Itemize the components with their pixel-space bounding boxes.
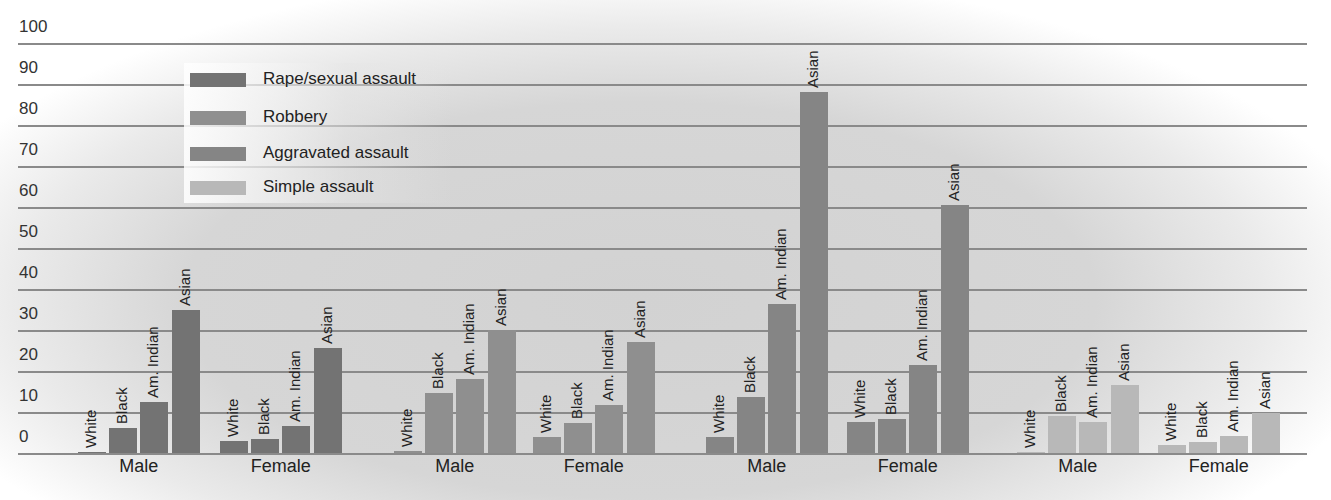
bar-category-label: Am. Indian	[773, 228, 789, 300]
bar-category-label: Am. Indian	[1084, 347, 1100, 419]
bar-category-label: Black	[1194, 402, 1210, 439]
group-label-female: Female	[533, 456, 655, 477]
gridline	[18, 207, 1307, 209]
bar-asian-male	[1111, 385, 1139, 453]
bar-category-label: Black	[1053, 375, 1069, 412]
bar-black-female	[1189, 442, 1217, 453]
legend-item: Aggravated assault	[190, 145, 490, 163]
group-label-female: Female	[220, 456, 342, 477]
y-axis-tick-label: 20	[19, 346, 38, 364]
gridline	[18, 453, 1307, 455]
group-label-male: Male	[78, 456, 200, 477]
legend-label: Rape/sexual assault	[263, 69, 416, 89]
gridline	[18, 330, 1307, 332]
bar-black-female	[878, 419, 906, 453]
bar-category-label: Black	[742, 357, 758, 394]
bar-category-label: White	[852, 379, 868, 417]
gridline	[18, 43, 1307, 45]
y-axis-tick-label: 50	[19, 223, 38, 241]
bar-asian-female	[941, 205, 969, 453]
group-label-male: Male	[706, 456, 828, 477]
y-axis-tick-label: 40	[19, 264, 38, 282]
bar-category-label: Am. Indian	[461, 303, 477, 375]
gridline	[18, 248, 1307, 250]
bar-category-label: Asian	[177, 268, 193, 306]
bar-category-label: White	[399, 409, 415, 447]
bar-asian-male	[800, 92, 828, 453]
bar-category-label: Am. Indian	[1225, 360, 1241, 432]
bar-chart: 0102030405060708090100WhiteBlackAm. Indi…	[0, 0, 1331, 500]
bar-am-indian-female	[1220, 436, 1248, 453]
y-axis-tick-label: 0	[19, 428, 28, 446]
legend-swatch	[190, 147, 246, 161]
bar-category-label: White	[538, 394, 554, 432]
bar-category-label: Black	[114, 388, 130, 425]
legend-item: Rape/sexual assault	[190, 71, 490, 89]
bar-white-female	[1158, 445, 1186, 453]
legend-swatch	[190, 181, 246, 195]
bar-category-label: White	[711, 394, 727, 432]
bar-category-label: Asian	[805, 51, 821, 89]
bar-category-label: Asian	[632, 301, 648, 339]
y-axis-tick-label: 60	[19, 182, 38, 200]
y-axis-tick-label: 70	[19, 141, 38, 159]
bar-am-indian-male	[456, 379, 484, 453]
legend-label: Simple assault	[263, 177, 374, 197]
bar-category-label: White	[1022, 409, 1038, 447]
legend-swatch	[190, 73, 246, 87]
bar-category-label: Asian	[319, 307, 335, 345]
bar-asian-male	[172, 310, 200, 454]
bar-white-male	[78, 452, 106, 454]
bar-black-male	[109, 428, 137, 453]
group-label-female: Female	[847, 456, 969, 477]
legend-label: Aggravated assault	[263, 143, 409, 163]
y-axis-tick-label: 30	[19, 305, 38, 323]
legend-item: Robbery	[190, 109, 490, 127]
bar-black-female	[251, 439, 279, 453]
bar-white-male	[706, 437, 734, 453]
bar-category-label: Asian	[493, 288, 509, 326]
bar-category-label: Asian	[1257, 372, 1273, 410]
bar-category-label: Black	[883, 378, 899, 415]
bar-category-label: Black	[569, 382, 585, 419]
bar-category-label: White	[1163, 402, 1179, 440]
bar-category-label: Am. Indian	[287, 350, 303, 422]
bar-am-indian-female	[595, 405, 623, 453]
bar-white-male	[394, 451, 422, 453]
bar-am-indian-male	[140, 402, 168, 453]
y-axis-tick-label: 80	[19, 100, 38, 118]
bar-am-indian-female	[909, 365, 937, 453]
bar-am-indian-male	[1079, 422, 1107, 453]
bar-black-male	[425, 393, 453, 453]
bar-black-female	[564, 423, 592, 453]
bar-white-female	[533, 437, 561, 453]
bar-category-label: White	[83, 409, 99, 447]
bar-asian-male	[488, 330, 516, 453]
bar-asian-female	[314, 348, 342, 453]
bar-category-label: Am. Indian	[145, 326, 161, 398]
gridline	[18, 289, 1307, 291]
bar-category-label: Asian	[1116, 343, 1132, 381]
bar-am-indian-female	[282, 426, 310, 453]
legend-item: Simple assault	[190, 179, 490, 197]
bar-white-male	[1017, 452, 1045, 454]
bar-category-label: White	[225, 398, 241, 436]
bar-white-female	[847, 422, 875, 453]
legend-swatch	[190, 111, 246, 125]
bar-asian-female	[1252, 413, 1280, 453]
y-axis-tick-label: 100	[19, 18, 47, 36]
bar-black-male	[737, 397, 765, 453]
bar-category-label: Am. Indian	[914, 290, 930, 362]
group-label-female: Female	[1158, 456, 1280, 477]
bar-white-female	[220, 441, 248, 453]
bar-asian-female	[627, 342, 655, 453]
group-label-male: Male	[1017, 456, 1139, 477]
bar-category-label: Asian	[946, 163, 962, 201]
legend-label: Robbery	[263, 107, 327, 127]
bar-category-label: Black	[430, 352, 446, 389]
bar-category-label: Black	[256, 399, 272, 436]
group-label-male: Male	[394, 456, 516, 477]
bar-am-indian-male	[768, 304, 796, 453]
bar-black-male	[1048, 416, 1076, 453]
bar-category-label: Am. Indian	[600, 329, 616, 401]
